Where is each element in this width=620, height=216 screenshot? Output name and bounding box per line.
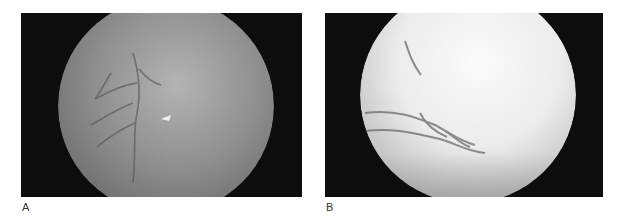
panel-label-a: A (22, 201, 29, 213)
fundus-image-a (21, 13, 302, 197)
panel-label-b: B (326, 201, 333, 213)
fundus-photo-a (21, 13, 302, 197)
fundus-photo-b (325, 13, 603, 197)
fundus-image-b (325, 13, 603, 197)
